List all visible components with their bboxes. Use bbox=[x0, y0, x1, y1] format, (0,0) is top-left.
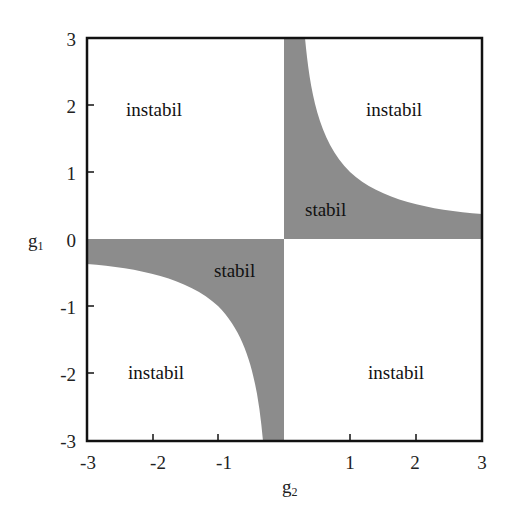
region-label-unstable-q1: instabil bbox=[366, 99, 422, 120]
y-tick-label: -2 bbox=[60, 364, 76, 385]
x-tick-label: -3 bbox=[80, 452, 96, 473]
region-label-stable-q1: stabil bbox=[305, 199, 346, 220]
y-tick-label: -3 bbox=[60, 431, 76, 452]
region-label-unstable-q2: instabil bbox=[126, 99, 182, 120]
x-axis-label: g2 bbox=[282, 476, 298, 499]
stability-chart: 3 2 1 0 -1 -2 -3 -3 -2 -1 1 2 3 g1 g2 in… bbox=[0, 0, 508, 515]
x-tick-label: -2 bbox=[150, 452, 166, 473]
y-tick-label: 1 bbox=[67, 163, 77, 184]
x-tick-label: -1 bbox=[216, 452, 232, 473]
y-tick-label: -1 bbox=[60, 297, 76, 318]
y-tick-label: 3 bbox=[67, 29, 77, 50]
y-tick-label: 0 bbox=[67, 230, 77, 251]
x-tick-label: 1 bbox=[345, 452, 355, 473]
region-label-unstable-q4: instabil bbox=[368, 362, 424, 383]
y-tick-label: 2 bbox=[67, 96, 77, 117]
x-tick-label: 2 bbox=[410, 452, 420, 473]
region-label-stable-q3: stabil bbox=[214, 260, 255, 281]
x-tick-label: 3 bbox=[477, 452, 487, 473]
y-axis-label: g1 bbox=[28, 230, 44, 253]
region-label-unstable-q3: instabil bbox=[128, 362, 184, 383]
